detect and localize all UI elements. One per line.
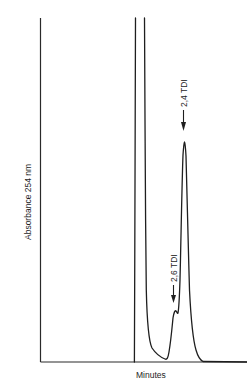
arrow-head-icon: [171, 295, 176, 303]
label-2-6-tdi: 2,6 TDI: [169, 254, 179, 282]
annotation-2-4-tdi: 2,4 TDI: [179, 79, 189, 131]
chromatogram-trace: [145, 18, 248, 362]
solvent-peak-left-edge: [134, 18, 135, 362]
annotation-2-6-tdi: 2,6 TDI: [169, 254, 179, 303]
chart-canvas: 2,4 TDI 2,6 TDI Absorbance 254 nm Minute…: [0, 0, 247, 385]
label-2-4-tdi: 2,4 TDI: [179, 79, 189, 107]
chromatogram-chart: 2,4 TDI 2,6 TDI Absorbance 254 nm Minute…: [0, 0, 247, 385]
x-axis-label: Minutes: [136, 370, 166, 380]
y-axis-label: Absorbance 254 nm: [23, 164, 33, 240]
arrow-head-icon: [181, 122, 186, 131]
